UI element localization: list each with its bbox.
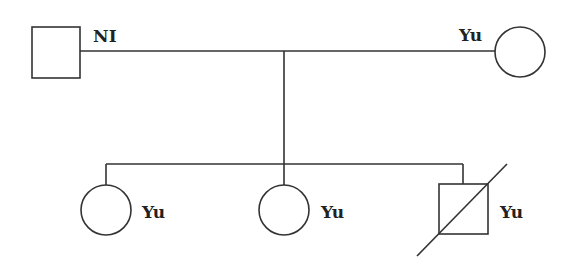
pedigree-diagram xyxy=(0,0,571,266)
mother-label: Yu xyxy=(459,25,482,45)
child-3-label: Yu xyxy=(500,202,523,222)
deceased-slash xyxy=(417,164,507,256)
mother-circle xyxy=(495,27,545,77)
child-2-label: Yu xyxy=(321,202,344,222)
child-1-circle xyxy=(81,185,131,235)
father-label: NI xyxy=(93,26,117,46)
child-2-circle xyxy=(259,185,309,235)
child-1-label: Yu xyxy=(142,202,165,222)
father-square xyxy=(32,27,80,78)
